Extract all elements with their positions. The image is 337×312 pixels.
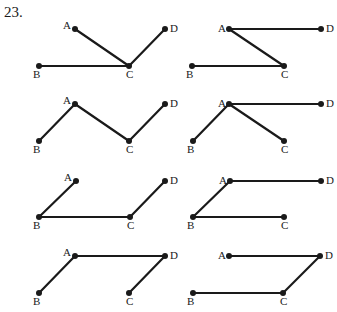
graph-panel-r3c2: ADBC bbox=[187, 174, 334, 231]
edge-CD bbox=[130, 181, 165, 217]
vertex-label-B: B bbox=[33, 219, 40, 231]
vertex-A bbox=[227, 178, 233, 184]
vertex-D bbox=[162, 253, 168, 259]
edge-AC bbox=[75, 104, 129, 141]
edge-CD bbox=[129, 256, 165, 293]
vertex-label-C: C bbox=[281, 219, 288, 231]
vertex-D bbox=[318, 26, 324, 32]
vertex-label-A: A bbox=[218, 97, 226, 109]
vertex-D bbox=[318, 101, 324, 107]
graph-panel-r2c1: ADBC bbox=[33, 94, 178, 155]
edge-AC bbox=[75, 29, 129, 66]
graph-panel-r4c2: ADBC bbox=[187, 249, 333, 307]
edge-AB bbox=[193, 104, 229, 141]
vertex-A bbox=[226, 253, 232, 259]
vertex-label-D: D bbox=[170, 97, 178, 109]
graph-panel-r4c1: ADBC bbox=[33, 246, 178, 307]
vertex-label-C: C bbox=[126, 68, 133, 80]
vertex-label-B: B bbox=[187, 295, 194, 307]
vertex-A bbox=[72, 253, 78, 259]
vertex-A bbox=[73, 178, 79, 184]
vertex-D bbox=[318, 178, 324, 184]
vertex-D bbox=[162, 101, 168, 107]
edge-DC bbox=[283, 256, 320, 293]
edge-BA bbox=[39, 256, 75, 293]
vertex-A bbox=[226, 26, 232, 32]
edge-BA bbox=[39, 104, 75, 141]
vertex-label-C: C bbox=[281, 143, 288, 155]
vertex-label-D: D bbox=[325, 249, 333, 261]
vertex-label-B: B bbox=[186, 68, 193, 80]
vertex-label-A: A bbox=[63, 246, 71, 258]
vertex-label-D: D bbox=[170, 249, 178, 261]
vertex-label-A: A bbox=[219, 174, 227, 186]
vertex-A bbox=[226, 101, 232, 107]
vertex-A bbox=[72, 101, 78, 107]
graph-panel-r2c2: ADBC bbox=[187, 97, 334, 155]
vertex-label-B: B bbox=[187, 219, 194, 231]
graph-diagram: ADBCADBCADBCADBCADBCADBCADBCADBC bbox=[0, 0, 337, 312]
edge-CD bbox=[129, 29, 165, 66]
vertex-label-A: A bbox=[63, 19, 71, 31]
vertex-D bbox=[162, 26, 168, 32]
vertex-label-C: C bbox=[126, 143, 133, 155]
vertex-label-B: B bbox=[187, 143, 194, 155]
vertex-label-D: D bbox=[170, 22, 178, 34]
edge-BA bbox=[39, 181, 76, 217]
vertex-label-A: A bbox=[218, 22, 226, 34]
vertex-label-B: B bbox=[33, 68, 40, 80]
vertex-label-A: A bbox=[218, 249, 226, 261]
edge-AB bbox=[193, 181, 230, 217]
edge-AC bbox=[229, 29, 284, 66]
vertex-label-C: C bbox=[126, 295, 133, 307]
vertex-label-D: D bbox=[326, 22, 334, 34]
vertex-label-D: D bbox=[326, 174, 334, 186]
edge-AC bbox=[229, 104, 284, 141]
vertex-label-C: C bbox=[280, 295, 287, 307]
vertex-label-B: B bbox=[33, 295, 40, 307]
vertex-label-D: D bbox=[326, 97, 334, 109]
graph-panel-r3c1: ADBC bbox=[33, 171, 178, 231]
edge-CD bbox=[129, 104, 165, 141]
vertex-label-C: C bbox=[281, 68, 288, 80]
vertex-label-D: D bbox=[170, 174, 178, 186]
vertex-D bbox=[162, 178, 168, 184]
vertex-A bbox=[72, 26, 78, 32]
graph-panel-r1c2: ADBC bbox=[186, 22, 334, 80]
vertex-label-A: A bbox=[63, 94, 71, 106]
vertex-label-C: C bbox=[127, 219, 134, 231]
graph-panel-r1c1: ADBC bbox=[33, 19, 178, 80]
vertex-label-B: B bbox=[33, 143, 40, 155]
vertex-label-A: A bbox=[64, 171, 72, 183]
vertex-D bbox=[317, 253, 323, 259]
